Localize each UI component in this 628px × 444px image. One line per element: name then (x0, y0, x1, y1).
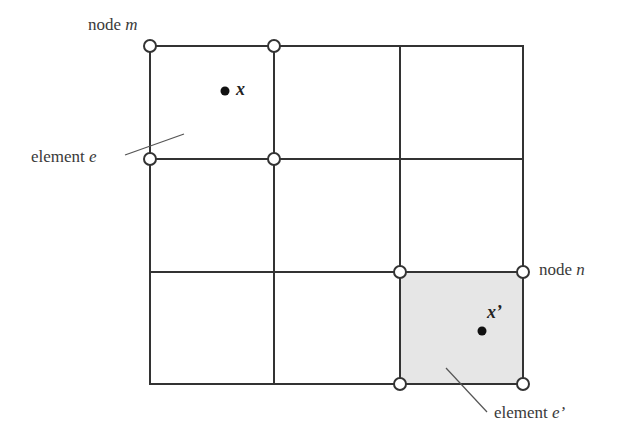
node-m-prefix: node (88, 15, 125, 34)
element-e-prime-prefix: element (494, 403, 552, 422)
mesh-diagram (0, 0, 628, 444)
element-e-prefix: element (31, 147, 89, 166)
node-n-label: node n (539, 260, 585, 280)
element-e-label: element e (31, 147, 97, 167)
point-x-prime-label: x’ (487, 302, 502, 323)
node-m-label: node m (88, 15, 138, 35)
element-e-prime-var: e’ (552, 403, 565, 422)
point-x-prime-dot (478, 327, 487, 336)
node-n-var: n (576, 260, 585, 279)
node-m-var: m (125, 15, 137, 34)
node-n-prefix: node (539, 260, 576, 279)
node-n-marker (517, 266, 529, 278)
element-e-prime-label: element e’ (494, 403, 565, 423)
shaded-element-e-prime (400, 272, 523, 384)
element-e-var: e (89, 147, 97, 166)
point-x-dot (221, 87, 230, 96)
node-m-marker (144, 40, 156, 52)
point-x-label: x (236, 79, 245, 100)
